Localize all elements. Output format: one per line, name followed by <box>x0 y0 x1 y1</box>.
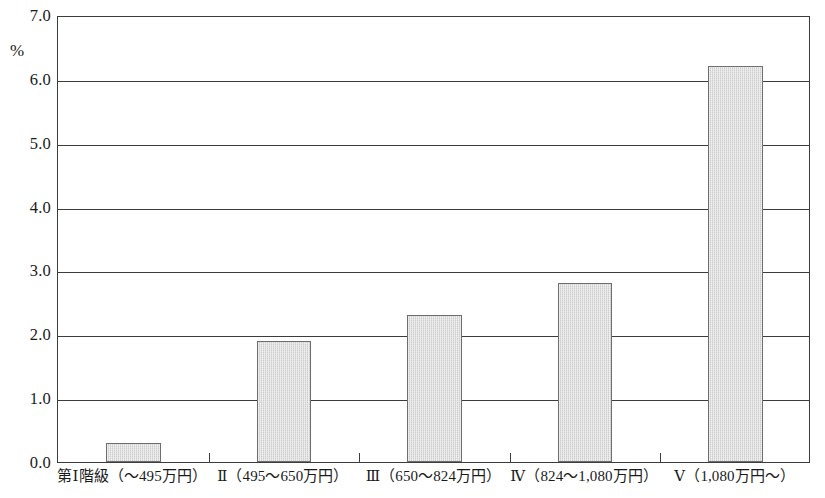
bar-chart: % 7.06.05.04.03.02.01.00.0 第Ⅰ階級（～495万円）Ⅱ… <box>0 0 825 498</box>
gridline <box>58 81 809 82</box>
bar <box>106 443 161 462</box>
x-axis-tick-labels: 第Ⅰ階級（～495万円）Ⅱ（495～650万円）Ⅲ（650～824万円）Ⅳ（82… <box>57 468 810 498</box>
x-axis-tick-label: 第Ⅰ階級（～495万円） <box>57 468 208 485</box>
y-axis-tick-label: 5.0 <box>3 135 51 152</box>
bar <box>708 66 763 462</box>
y-axis-tick-label: 0.0 <box>3 455 51 472</box>
gridline <box>58 209 809 210</box>
x-axis-tick <box>660 453 661 462</box>
x-axis-tick <box>209 453 210 462</box>
bar <box>257 341 312 462</box>
x-axis-tick <box>359 453 360 462</box>
y-axis-tick-labels: 7.06.05.04.03.02.01.00.0 <box>0 0 51 498</box>
x-axis-tick-label: Ⅳ（824～1,080万円） <box>509 468 660 485</box>
x-axis-tick-label: Ⅱ（495～650万円） <box>208 468 359 485</box>
gridline <box>58 145 809 146</box>
y-axis-tick-label: 2.0 <box>3 327 51 344</box>
y-axis-tick-label: 1.0 <box>3 391 51 408</box>
bar <box>558 283 613 462</box>
y-axis-tick-label: 4.0 <box>3 199 51 216</box>
y-axis-tick-label: 6.0 <box>3 72 51 89</box>
bar <box>407 315 462 462</box>
y-axis-tick-label: 7.0 <box>3 8 51 25</box>
x-axis-tick-label: Ⅲ（650～824万円） <box>358 468 509 485</box>
y-axis-tick-label: 3.0 <box>3 263 51 280</box>
gridline <box>58 272 809 273</box>
plot-area <box>57 16 810 463</box>
x-axis-tick-label: Ⅴ（1,080万円～） <box>659 468 810 485</box>
x-axis-tick <box>510 453 511 462</box>
